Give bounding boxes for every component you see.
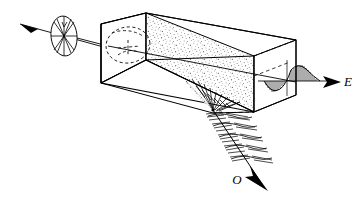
birefringence-figure: E O	[0, 0, 359, 199]
e-ray-label: E	[343, 74, 352, 89]
diagram-canvas: E O	[0, 0, 359, 199]
o-ray-label: O	[232, 172, 242, 187]
